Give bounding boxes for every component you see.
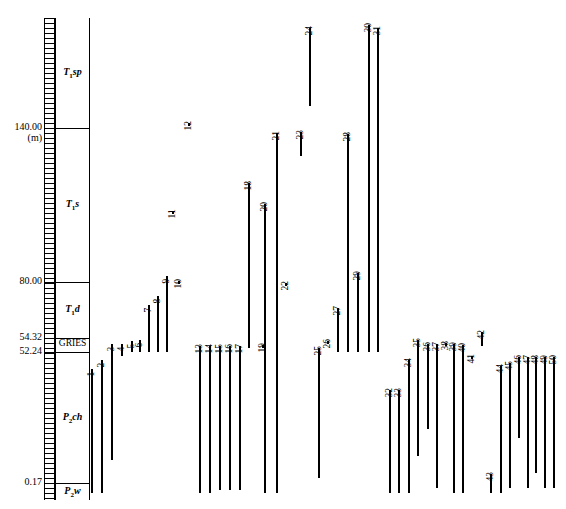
ladder-rung [45,343,54,344]
taxon-range-label: 7 [144,308,154,313]
ladder-rung [45,218,54,219]
ladder-rung [45,88,54,89]
ladder-rung [45,398,54,399]
taxon-range-label: 26 [323,339,333,349]
taxon-range-label: 41 [467,354,477,364]
ladder-rung [45,148,54,149]
ladder-rung [45,313,54,314]
ladder-rung [45,58,54,59]
taxon-range-label: 20 [260,202,270,212]
taxon-range-label: 8 [153,299,163,304]
ladder-rung [45,198,54,199]
ladder-rung [45,438,54,439]
ladder-rung [45,178,54,179]
ladder-rung [45,238,54,239]
depth-unit-label: (m) [0,133,42,144]
ladder-rung [45,453,54,454]
taxon-range-bar [276,133,278,493]
taxon-range-bar [357,273,359,352]
taxon-range-bar [166,276,168,352]
ladder-rung [45,368,54,369]
taxon-range-label: 6 [135,343,145,348]
taxon-range-bar [239,346,241,490]
taxon-range-bar [535,357,537,473]
ladder-rung [45,478,54,479]
ladder-rung [45,93,54,94]
formation-label: P2w [55,486,90,499]
taxon-range-bar [157,296,159,352]
ladder-rung [45,138,54,139]
ladder-rung [45,293,54,294]
ladder-rung [45,353,54,354]
taxon-range-label: 10 [174,279,184,289]
taxon-range-bar [199,346,201,493]
ladder-rung [45,363,54,364]
depth-tick-label: 0.17 [0,477,42,488]
ladder-rung [45,303,54,304]
ladder-rung [45,133,54,134]
ladder-rung [45,288,54,289]
ladder-rung [45,373,54,374]
taxon-range-label: 11 [168,209,178,218]
taxon-range-bar [408,360,410,493]
taxon-range-label: 9 [162,279,172,284]
ladder-rung [45,73,54,74]
taxon-range-bar [462,345,464,493]
taxon-range-bar [111,344,113,460]
ladder-rung [45,183,54,184]
taxon-range-bar [264,204,266,493]
ladder-rung [45,168,54,169]
ladder-rung [45,468,54,469]
ladder-rung [45,108,54,109]
formation-boundary [44,352,90,353]
taxon-range-label: 42 [477,330,487,340]
ladder-rung [45,423,54,424]
taxon-range-label: 50 [549,355,559,365]
formation-boundary [44,282,90,283]
ladder-rung [45,118,54,119]
formation-label: T1sp [55,67,90,80]
taxon-range-label: 28 [343,132,353,142]
depth-tick-label: 52.24 [0,346,42,357]
ladder-rung [45,63,54,64]
ladder-rung [45,228,54,229]
ladder-rung [45,298,54,299]
ladder-rung [45,33,54,34]
taxon-range-label: 23 [296,130,306,140]
ladder-rung [45,358,54,359]
ladder-rung [45,173,54,174]
taxon-range-bar [518,357,520,438]
ladder-rung [45,28,54,29]
ladder-rung [45,488,54,489]
taxon-range-label: 27 [333,306,343,316]
ladder-rung [45,153,54,154]
taxon-range-bar [248,183,250,348]
ladder-rung [45,273,54,274]
ladder-rung [45,243,54,244]
taxon-range-label: 31 [373,26,383,36]
ladder-rung [45,378,54,379]
ladder-rung [45,68,54,69]
ladder-rung [45,213,54,214]
ladder-rung [45,418,54,419]
ladder-rung [45,448,54,449]
depth-scale-ladder [44,18,55,500]
taxon-range-bar [101,360,103,493]
ladder-rung [45,53,54,54]
ladder-rung [45,428,54,429]
ladder-rung [45,208,54,209]
ladder-rung [45,413,54,414]
ladder-rung [45,258,54,259]
ladder-rung [45,283,54,284]
ladder-rung [45,473,54,474]
ladder-rung [45,263,54,264]
ladder-rung [45,278,54,279]
ladder-rung [45,163,54,164]
ladder-rung [45,103,54,104]
ladder-rung [45,23,54,24]
formation-label: T1d [55,304,90,317]
ladder-rung [45,443,54,444]
ladder-rung [45,188,54,189]
ladder-rung [45,43,54,44]
taxon-range-bar [509,363,511,488]
